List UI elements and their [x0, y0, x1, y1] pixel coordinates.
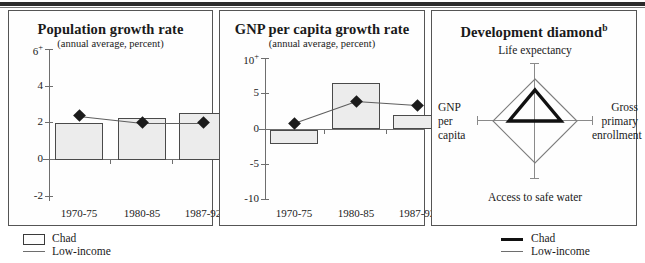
legend-right: Chad Low-income	[0, 0, 645, 263]
legend-label-low-income-diamond: Low-income	[531, 245, 590, 257]
legend-label-chad-diamond: Chad	[531, 232, 555, 244]
legend-swatch-thin-lowincome	[501, 251, 523, 252]
legend-swatch-thick-chad	[501, 238, 523, 241]
figure-root: Population growth rate (annual average, …	[0, 0, 645, 263]
